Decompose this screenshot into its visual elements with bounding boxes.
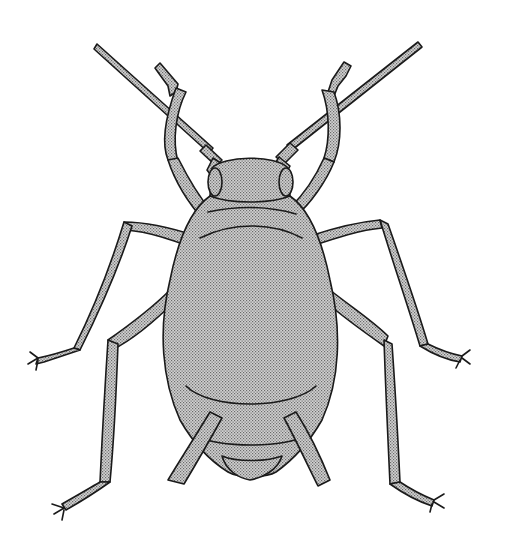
eye-right <box>279 168 293 196</box>
hind-leg-right <box>326 290 444 512</box>
hind-leg-left <box>52 290 176 520</box>
body <box>163 196 337 477</box>
eye-left <box>208 168 222 196</box>
aphid-illustration: aphid illustration <box>0 0 506 553</box>
aphid-drawing <box>0 0 506 553</box>
